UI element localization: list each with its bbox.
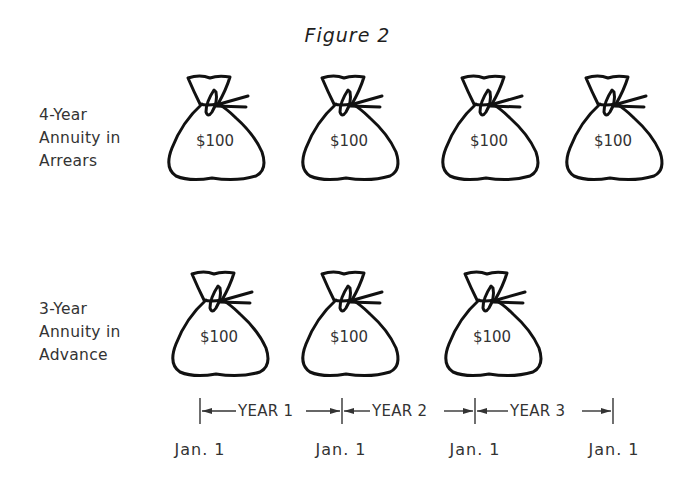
timeline-date: Jan. 1 [174,440,225,459]
arrow-left-icon [344,408,354,414]
timeline [0,0,695,484]
arrow-right-icon [463,408,473,414]
arrow-left-icon [202,408,212,414]
timeline-segment-year-1: YEAR 1 [238,402,293,420]
arrow-right-icon [601,408,611,414]
timeline-date: Jan. 1 [588,440,639,459]
arrow-left-icon [477,408,487,414]
timeline-date: Jan. 1 [315,440,366,459]
timeline-segment-year-2: YEAR 2 [372,402,427,420]
arrow-right-icon [330,408,340,414]
timeline-date: Jan. 1 [449,440,500,459]
timeline-segment-year-3: YEAR 3 [510,402,565,420]
